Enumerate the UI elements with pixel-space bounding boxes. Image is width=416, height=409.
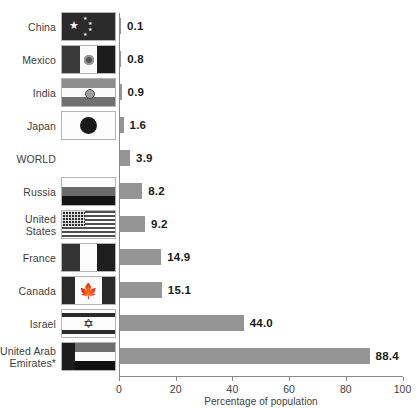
x-axis-tick: [403, 377, 404, 381]
flag-china-icon: ★★★★★: [61, 12, 116, 41]
category-label: Japan: [0, 109, 56, 142]
flag-india-icon: [61, 78, 116, 107]
bar-value-label: 15.1: [168, 282, 191, 298]
bar-value-label: 9.2: [151, 216, 168, 232]
bar-value-label: 14.9: [167, 249, 190, 265]
bar-value-label: 44.0: [250, 315, 273, 331]
bar-value-label: 0.9: [128, 84, 145, 100]
bar-value-label: 88.4: [376, 348, 399, 364]
category-label: Mexico: [0, 43, 56, 76]
category-label: China: [0, 10, 56, 43]
category-label: Russia: [0, 175, 56, 208]
bar: [119, 183, 142, 199]
bar-value-label: 0.1: [127, 18, 144, 34]
x-axis-tick: [289, 377, 290, 381]
x-axis-tick-label: 80: [326, 383, 366, 395]
bar-value-label: 0.8: [127, 51, 144, 67]
category-label: India: [0, 76, 56, 109]
chart-row: France14.9: [0, 241, 416, 274]
chakra-icon: [85, 89, 95, 99]
canton-icon: [62, 211, 85, 226]
bar-value-label: 1.6: [130, 117, 147, 133]
star-icon: ★: [83, 32, 87, 37]
flag-russia-icon: [61, 177, 116, 206]
y-axis-line: [119, 13, 120, 376]
category-label: United States: [0, 208, 56, 241]
bar-value-label: 8.2: [148, 183, 165, 199]
x-axis-tick: [119, 377, 120, 381]
x-axis-tick: [232, 377, 233, 381]
category-label: United Arab Emirates*: [0, 340, 56, 373]
x-axis-tick: [176, 377, 177, 381]
x-axis-tick-label: 60: [269, 383, 309, 395]
chart-row: United Arab Emirates*88.4: [0, 340, 416, 373]
chart-row: Mexico0.8: [0, 43, 416, 76]
x-axis-title: Percentage of population: [119, 396, 403, 407]
flag-canada-icon: 🍁: [61, 276, 116, 305]
flag-israel-icon: ✡: [61, 309, 116, 338]
category-label: France: [0, 241, 56, 274]
emblem-icon: [84, 55, 94, 65]
chart-row: United States9.2: [0, 208, 416, 241]
flag-mexico-icon: [61, 45, 116, 74]
bar: [119, 282, 162, 298]
chart-row: Japan1.6: [0, 109, 416, 142]
x-axis-tick-label: 100: [383, 383, 416, 395]
chart-row: Russia8.2: [0, 175, 416, 208]
bar: [119, 216, 145, 232]
sun-disc-icon: [80, 117, 97, 134]
bar-value-label: 3.9: [136, 150, 153, 166]
star-icon: ★: [88, 27, 92, 32]
bar: [119, 348, 370, 364]
chart-row: India0.9: [0, 76, 416, 109]
flag-united-arab-emirates-icon: [61, 342, 116, 371]
bar: [119, 150, 130, 166]
x-axis-tick-label: 0: [99, 383, 139, 395]
bar: [119, 315, 244, 331]
bar: [119, 249, 161, 265]
chart-row: Israel✡44.0: [0, 307, 416, 340]
x-axis-tick: [346, 377, 347, 381]
x-axis-line: [119, 376, 403, 377]
bar-chart: China★★★★★0.1Mexico0.8India0.9Japan1.6WO…: [0, 0, 416, 409]
category-label: Israel: [0, 307, 56, 340]
chart-row: Canada🍁15.1: [0, 274, 416, 307]
chart-row: China★★★★★0.1: [0, 10, 416, 43]
flag-france-icon: [61, 243, 116, 272]
star-icon: ★: [69, 20, 79, 31]
x-axis-tick-label: 20: [156, 383, 196, 395]
flag-japan-icon: [61, 111, 116, 140]
flag-united-states-icon: [61, 210, 116, 239]
star-icon: ★: [83, 16, 87, 21]
category-label: Canada: [0, 274, 56, 307]
maple-leaf-icon: 🍁: [79, 283, 98, 298]
chart-row: WORLD3.9: [0, 142, 416, 175]
category-label: WORLD: [0, 142, 56, 175]
star-of-david-icon: ✡: [83, 317, 94, 330]
x-axis-tick-label: 40: [212, 383, 252, 395]
